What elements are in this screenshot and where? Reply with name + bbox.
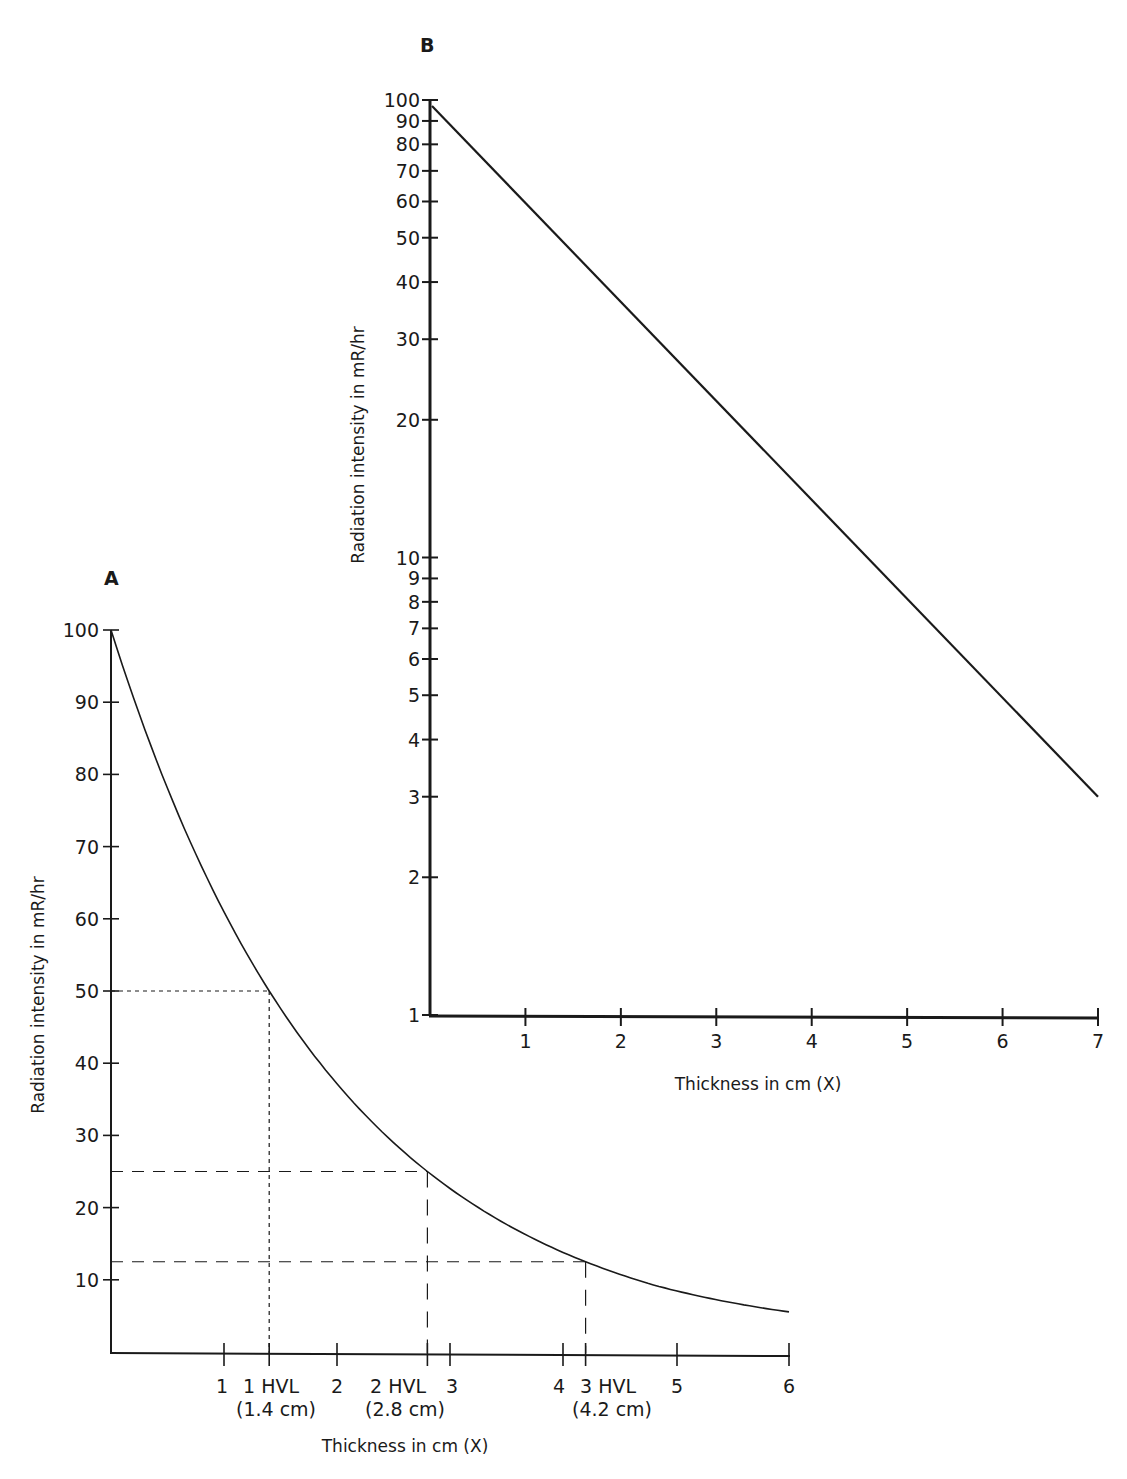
- x-tick-label-b: 1: [519, 1030, 531, 1052]
- y-tick-label-b: 1: [408, 1004, 420, 1026]
- attenuation-curve-a: [111, 630, 789, 1312]
- y-tick-label-b: 4: [408, 729, 420, 751]
- x-tick-label-a: 3: [446, 1375, 458, 1397]
- panel-label-a: A: [104, 567, 119, 589]
- y-tick-label-b: 20: [396, 409, 420, 431]
- x-axis-title-b: Thickness in cm (X): [674, 1074, 842, 1094]
- hvl-guide-lines: [111, 991, 586, 1353]
- hvl2-label: 2 HVL: [370, 1375, 426, 1397]
- y-tick-label-b: 90: [396, 110, 420, 132]
- y-tick-label-a: 30: [75, 1124, 99, 1146]
- y-tick-label-b: 6: [408, 648, 420, 670]
- x-tick-label-b: 4: [806, 1030, 818, 1052]
- hvl1-value: (1.4 cm): [236, 1398, 316, 1420]
- x-ticks-a: 123456: [216, 1343, 795, 1397]
- y-tick-label-a: 50: [75, 980, 99, 1002]
- y-tick-label-b: 80: [396, 133, 420, 155]
- hvl3-label: 3 HVL: [580, 1375, 636, 1397]
- hvl2-value: (2.8 cm): [365, 1398, 445, 1420]
- y-tick-label-b: 60: [396, 190, 420, 212]
- y-tick-label-b: 50: [396, 227, 420, 249]
- chart-b: B 123456789102030405060708090100 1234567…: [348, 34, 1104, 1094]
- x-tick-label-b: 7: [1092, 1030, 1104, 1052]
- x-tick-label-a: 2: [331, 1375, 343, 1397]
- y-tick-label-a: 90: [75, 691, 99, 713]
- x-tick-label-a: 5: [671, 1375, 683, 1397]
- x-tick-label-b: 2: [615, 1030, 627, 1052]
- hvl1-label: 1 HVL: [243, 1375, 299, 1397]
- x-tick-label-a: 1: [216, 1375, 228, 1397]
- y-tick-label-b: 5: [408, 684, 420, 706]
- x-tick-label-b: 5: [901, 1030, 913, 1052]
- y-tick-label-a: 80: [75, 763, 99, 785]
- y-tick-label-a: 20: [75, 1197, 99, 1219]
- x-axis-title-a: Thickness in cm (X): [321, 1436, 489, 1456]
- y-axis-title-b: Radiation intensity in mR/hr: [348, 326, 368, 564]
- y-tick-label-b: 100: [384, 89, 420, 111]
- y-tick-label-a: 100: [63, 619, 99, 641]
- y-tick-label-b: 70: [396, 160, 420, 182]
- x-tick-label-a: 4: [553, 1375, 565, 1397]
- hvl3-value: (4.2 cm): [572, 1398, 652, 1420]
- y-tick-label-b: 10: [396, 547, 420, 569]
- figure: B 123456789102030405060708090100 1234567…: [0, 0, 1127, 1479]
- y-tick-label-b: 30: [396, 328, 420, 350]
- x-tick-label-a: 6: [783, 1375, 795, 1397]
- data-line-b: [432, 106, 1098, 797]
- y-tick-label-b: 9: [408, 567, 420, 589]
- x-tick-label-b: 3: [710, 1030, 722, 1052]
- y-tick-label-a: 10: [75, 1269, 99, 1291]
- y-tick-label-a: 70: [75, 836, 99, 858]
- y-tick-label-b: 8: [408, 591, 420, 613]
- x-tick-label-b: 6: [997, 1030, 1009, 1052]
- y-tick-label-b: 40: [396, 271, 420, 293]
- y-tick-label-b: 2: [408, 866, 420, 888]
- y-tick-label-a: 60: [75, 908, 99, 930]
- x-axis-b: [429, 1016, 1098, 1018]
- y-axis-title-a: Radiation intensity in mR/hr: [28, 876, 48, 1114]
- y-tick-label-b: 3: [408, 786, 420, 808]
- x-ticks-b: 1234567: [519, 1008, 1104, 1052]
- panel-label-b: B: [420, 34, 434, 56]
- y-tick-label-a: 40: [75, 1052, 99, 1074]
- y-tick-label-b: 7: [408, 617, 420, 639]
